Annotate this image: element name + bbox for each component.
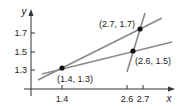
x-tick-label: 1.4	[56, 94, 69, 104]
point-label: (2.6, 1.5)	[135, 56, 171, 66]
x-tick-label: 2.6	[121, 94, 134, 104]
y-axis-arrow-icon	[29, 9, 34, 16]
y-axis-label: y	[21, 6, 28, 17]
point-2	[137, 26, 142, 31]
diagram-canvas: 1.7 1.5 1.3 1.4 2.6 2.7 y x (1.4, 1.3) (…	[0, 0, 181, 109]
x-tick-label: 2.7	[137, 94, 150, 104]
point-3	[130, 48, 135, 53]
y-tick-label: 1.5	[14, 47, 27, 57]
point-labels: (1.4, 1.3) (2.7, 1.7) (2.6, 1.5)	[57, 19, 171, 84]
point-label: (2.7, 1.7)	[99, 19, 135, 29]
point-label: (1.4, 1.3)	[57, 74, 93, 84]
x-axis-label: x	[166, 93, 173, 104]
triangle-lines-diagram: 1.7 1.5 1.3 1.4 2.6 2.7 y x (1.4, 1.3) (…	[0, 0, 181, 109]
y-tick-label: 1.7	[14, 28, 27, 38]
x-axis-arrow-icon	[168, 87, 175, 92]
point-1	[59, 65, 64, 70]
y-tick-label: 1.3	[14, 65, 27, 75]
